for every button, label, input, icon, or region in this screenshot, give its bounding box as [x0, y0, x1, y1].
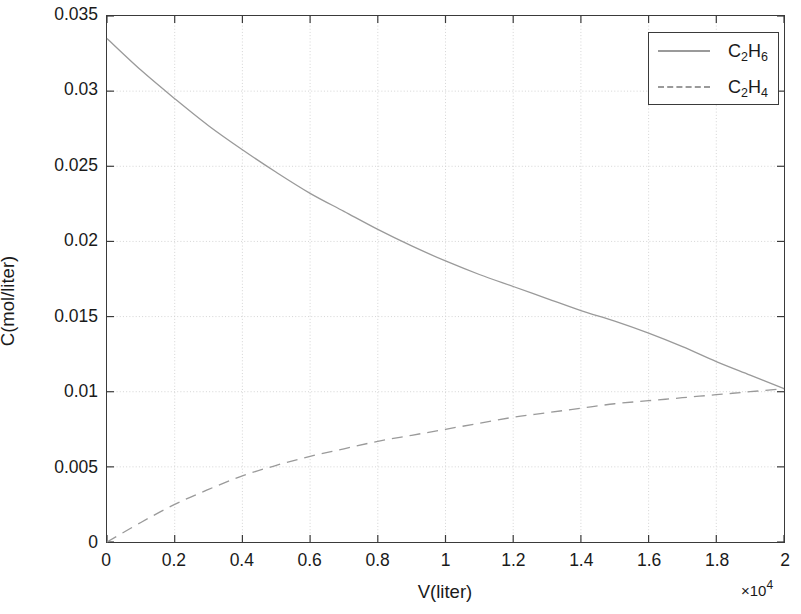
x-tick-label: 0.2 [162, 552, 186, 570]
x-tick-label: 0.4 [230, 552, 254, 570]
legend-line-sample-dashed [658, 86, 710, 88]
x-tick-label: 0.6 [298, 552, 322, 570]
y-tick-label: 0 [88, 534, 98, 552]
legend-box: C2H6 C2H4 [648, 32, 779, 105]
legend-line-sample-solid [658, 50, 710, 52]
x-tick-label: 2 [780, 552, 790, 570]
x-axis-exponent-power: 4 [766, 578, 773, 592]
x-tick-label: 1 [441, 552, 451, 570]
curve-c2h4 [107, 389, 784, 542]
y-tick-label: 0.015 [54, 308, 98, 326]
x-tick-label: 1.2 [501, 552, 525, 570]
x-tick-label: 1.8 [705, 552, 729, 570]
x-axis-title: V(liter) [418, 581, 472, 603]
x-axis-exponent-prefix: ×10 [741, 582, 766, 599]
x-tick-label: 0.8 [365, 552, 389, 570]
y-tick-label: 0.03 [64, 82, 98, 100]
x-axis-exponent-label: ×104 [741, 578, 773, 601]
x-tick-label: 0 [101, 552, 111, 570]
x-tick-label: 1.6 [637, 552, 661, 570]
legend-entry-c2h4: C2H4 [649, 69, 778, 105]
y-tick-label: 0.005 [54, 459, 98, 477]
y-tick-label: 0.025 [54, 157, 98, 175]
y-tick-label: 0.035 [54, 6, 98, 24]
x-tick-label: 1.4 [569, 552, 593, 570]
legend-label-c2h4: C2H4 [710, 77, 778, 98]
y-tick-label: 0.02 [64, 233, 98, 251]
y-tick-label: 0.01 [64, 383, 98, 401]
legend-entry-c2h6: C2H6 [649, 33, 778, 69]
legend-label-c2h6: C2H6 [710, 41, 778, 62]
y-axis-title: C(mol/liter) [0, 256, 19, 346]
figure-canvas: C(mol/liter) V(liter) ×104 00.20.40.60.8… [0, 0, 801, 614]
